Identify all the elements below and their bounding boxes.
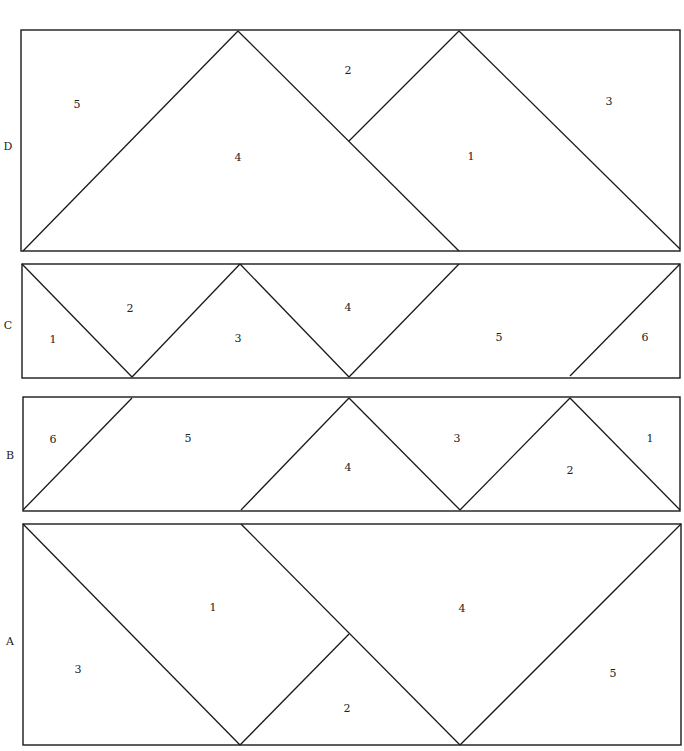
seam-line [459, 31, 680, 249]
piece-number: 2 [127, 302, 134, 315]
row-d: D52341 [4, 30, 680, 251]
row-label: A [5, 635, 15, 648]
row-label: C [4, 319, 12, 332]
piece-number: 5 [74, 98, 81, 111]
piece-number: 2 [567, 464, 574, 477]
piece-number: 2 [345, 64, 352, 77]
piece-number: 3 [75, 663, 82, 676]
seam-line [23, 31, 238, 251]
piece-number: 1 [50, 333, 57, 346]
piece-number: 1 [210, 601, 217, 614]
row-label: B [6, 449, 14, 462]
piece-number: 3 [454, 432, 461, 445]
row-b: B654321 [6, 397, 680, 511]
seam-line [570, 398, 680, 510]
seam-line [460, 398, 570, 510]
piece-number: 6 [50, 433, 57, 446]
piece-number: 4 [345, 301, 352, 314]
piece-number: 1 [468, 150, 475, 163]
piecing-diagram: D52341C123456B654321A14352 [0, 0, 684, 751]
seam-line [460, 524, 681, 745]
seam-line [349, 398, 460, 510]
seam-line [349, 31, 459, 141]
row-frame [22, 264, 680, 378]
piece-number: 3 [235, 332, 242, 345]
piece-number: 2 [344, 702, 351, 715]
row-frame [23, 397, 680, 511]
piece-number: 5 [185, 432, 192, 445]
seam-line [349, 264, 459, 377]
seam-line [240, 264, 349, 377]
piece-number: 4 [345, 461, 352, 474]
seam-line [22, 264, 132, 377]
piece-number: 6 [642, 331, 649, 344]
seam-line [241, 524, 460, 745]
row-label: D [4, 140, 13, 153]
piece-number: 3 [606, 95, 613, 108]
seam-line [240, 634, 349, 745]
seam-line [23, 398, 132, 510]
row-c: C123456 [4, 264, 680, 378]
piece-number: 5 [496, 331, 503, 344]
piece-number: 1 [647, 432, 654, 445]
seam-line [570, 264, 680, 376]
piece-number: 4 [459, 602, 466, 615]
seam-line [23, 524, 240, 745]
row-frame [23, 524, 681, 745]
seam-line [241, 398, 349, 510]
piece-number: 4 [235, 151, 242, 164]
seam-line [132, 264, 240, 377]
piece-number: 5 [610, 667, 617, 680]
row-a: A14352 [5, 524, 681, 745]
